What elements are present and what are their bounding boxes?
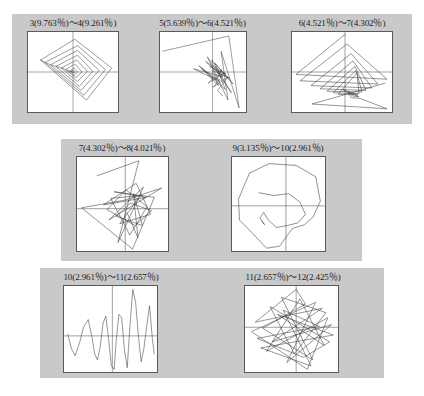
panel-11-12: 11(2.657％)〜12(2.425％) (232, 272, 354, 373)
figure-mode-transition-plots: 3(9.763％)〜4(9.261％) 5(5.639％)〜6(4.521％) … (0, 0, 424, 396)
panel-11-12-plot (244, 285, 339, 373)
panel-10-11: 10(2.961％)〜11(2.657％) (50, 272, 172, 373)
panel-3-4-plot (27, 31, 119, 113)
panel-11-12-label: 11(2.657％)〜12(2.425％) (232, 272, 354, 283)
panel-5-6-plot (159, 31, 247, 113)
panel-5-6-label: 5(5.639％)〜6(4.521％) (150, 18, 255, 29)
panel-7-8-label: 7(4.302％)〜8(4.021％) (66, 143, 178, 154)
panel-6-7: 6(4.521％)〜7(4.302％) (282, 18, 402, 113)
panel-6-7-plot (291, 31, 393, 113)
panel-10-11-plot (63, 285, 158, 373)
panel-10-11-label: 10(2.961％)〜11(2.657％) (50, 272, 172, 283)
panel-9-10: 9(3.135％)〜10(2.961％) (222, 143, 334, 252)
panel-3-4: 3(9.763％)〜4(9.261％) (18, 18, 128, 113)
panel-9-10-plot (231, 156, 326, 252)
panel-6-7-label: 6(4.521％)〜7(4.302％) (282, 18, 402, 29)
panel-7-8: 7(4.302％)〜8(4.021％) (66, 143, 178, 252)
panel-3-4-label: 3(9.763％)〜4(9.261％) (18, 18, 128, 29)
panel-5-6: 5(5.639％)〜6(4.521％) (150, 18, 255, 113)
panel-7-8-plot (76, 156, 169, 252)
panel-9-10-label: 9(3.135％)〜10(2.961％) (222, 143, 334, 154)
